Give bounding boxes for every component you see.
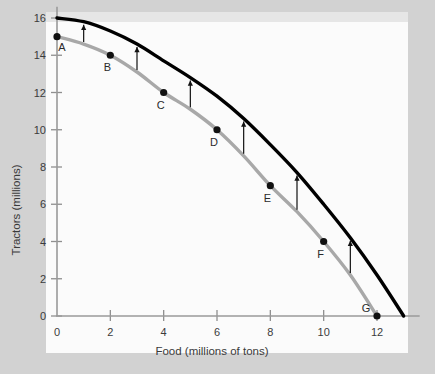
data-points: ABCDEFG — [53, 33, 380, 320]
data-point-label: E — [264, 192, 271, 204]
data-point-marker — [213, 126, 220, 133]
x-tick-label: 6 — [214, 326, 220, 338]
x-axis-ticks: 024681012 — [54, 310, 383, 338]
shift-arrow-head-icon — [81, 25, 86, 30]
data-point-marker — [373, 312, 380, 319]
data-point-marker — [53, 33, 60, 40]
y-tick-label: 16 — [34, 12, 46, 24]
data-point-label: A — [58, 41, 66, 53]
y-tick-label: 8 — [40, 161, 46, 173]
y-axis-title: Tractors (millions) — [10, 164, 22, 255]
x-axis-title: Food (millions of tons) — [155, 345, 268, 357]
data-point-label: D — [210, 136, 218, 148]
data-point-marker — [160, 89, 167, 96]
x-tick-label: 4 — [161, 326, 167, 338]
shift-arrow-head-icon — [134, 47, 139, 52]
data-point-label: G — [362, 302, 371, 314]
y-tick-label: 6 — [40, 198, 46, 210]
x-tick-label: 10 — [318, 326, 330, 338]
x-tick-label: 12 — [371, 326, 383, 338]
shift-arrow-head-icon — [188, 81, 193, 86]
chart-figure: 0246810121416 024681012 ABCDEFG Tractors… — [0, 0, 435, 374]
data-point-label: B — [104, 61, 111, 73]
y-tick-label: 10 — [34, 124, 46, 136]
y-tick-label: 0 — [40, 310, 46, 322]
data-point-label: C — [157, 99, 165, 111]
y-tick-label: 2 — [40, 273, 46, 285]
data-point-marker — [107, 52, 114, 59]
y-tick-label: 14 — [34, 49, 46, 61]
x-tick-label: 2 — [107, 326, 113, 338]
data-point-marker — [320, 238, 327, 245]
y-tick-label: 12 — [34, 87, 46, 99]
x-tick-label: 8 — [267, 326, 273, 338]
ppf-chart-canvas: 0246810121416 024681012 ABCDEFG Tractors… — [0, 0, 435, 374]
y-tick-label: 4 — [40, 236, 46, 248]
data-point-label: F — [317, 248, 324, 260]
data-point-marker — [267, 182, 274, 189]
x-tick-label: 0 — [54, 326, 60, 338]
original-ppf-curve — [57, 37, 377, 316]
